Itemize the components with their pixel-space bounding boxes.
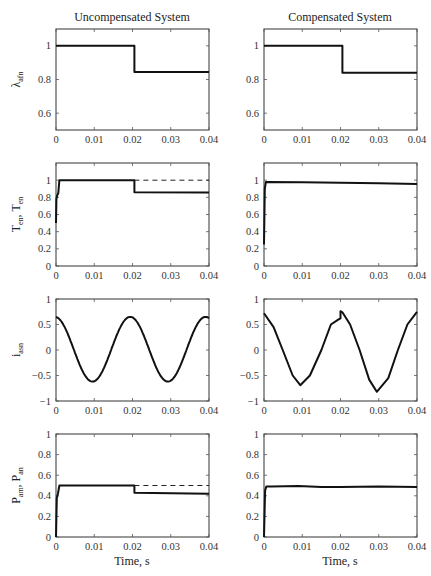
y-tick-label: 0.8 xyxy=(246,192,259,203)
plot-frame xyxy=(264,163,417,266)
y-tick-label: 0.6 xyxy=(38,209,51,220)
x-tick-label: 0.04 xyxy=(200,134,219,145)
panel-uncompensated-power: 00.20.40.60.8100.010.020.030.04 xyxy=(38,429,219,553)
y-tick-label: 0.8 xyxy=(246,449,259,460)
x-axis-labels: Time, s Time, s xyxy=(114,554,358,568)
y-axis-label: iasn xyxy=(9,343,25,357)
x-tick-label: 0.02 xyxy=(331,134,349,145)
x-tick-label: 0.04 xyxy=(200,541,219,552)
plot-frame xyxy=(56,29,209,130)
panel-compensated-current: −1−0.500.5100.010.020.030.04 xyxy=(240,294,427,417)
x-tick-label: 0.01 xyxy=(293,541,311,552)
y-tick-label: 0 xyxy=(254,261,259,272)
x-tick-label: 0.01 xyxy=(293,134,311,145)
y-tick-label: 1 xyxy=(46,175,51,186)
y-tick-label: 0.6 xyxy=(246,470,259,481)
y-tick-label: −0.5 xyxy=(240,370,259,381)
panel-uncompensated-flux: 0.60.8100.010.020.030.04 xyxy=(38,29,219,145)
panels: λafn0.60.8100.010.020.030.040.60.8100.01… xyxy=(9,29,427,552)
x-tick-label: 0.03 xyxy=(162,270,180,281)
y-tick-label: 0.4 xyxy=(246,490,260,501)
y-tick-label: 1 xyxy=(46,40,51,51)
y-tick-label: 1 xyxy=(254,175,259,186)
series-power xyxy=(56,486,209,538)
y-tick-label: 0 xyxy=(46,532,51,543)
x-tick-label: 0.03 xyxy=(162,134,180,145)
series-current xyxy=(56,317,209,382)
y-tick-label: 0.6 xyxy=(38,470,51,481)
y-tick-label: 0.5 xyxy=(38,319,51,330)
y-tick-label: 1 xyxy=(46,429,51,440)
x-tick-label: 0.02 xyxy=(331,405,349,416)
x-tick-label: 0.03 xyxy=(162,541,180,552)
x-tick-label: 0.03 xyxy=(370,270,388,281)
x-tick-label: 0.04 xyxy=(408,270,427,281)
y-tick-label: 0.2 xyxy=(38,511,51,522)
x-tick-label: 0.02 xyxy=(123,270,141,281)
panel-uncompensated-current: −1−0.500.5100.010.020.030.04 xyxy=(32,294,219,417)
y-tick-label: 0 xyxy=(254,345,259,356)
y-tick-label: 0.6 xyxy=(246,108,259,119)
x-tick-label: 0.03 xyxy=(162,405,180,416)
y-tick-label: −0.5 xyxy=(32,370,51,381)
x-tick-label: 0.02 xyxy=(331,541,349,552)
figure: Uncompensated System Compensated System … xyxy=(0,0,431,576)
y-axis-label: Pam, Pan xyxy=(9,467,25,504)
x-tick-label: 0.04 xyxy=(408,405,427,416)
x-tick-label: 0.01 xyxy=(293,270,311,281)
y-tick-label: 1 xyxy=(46,294,51,305)
y-tick-label: 0.8 xyxy=(246,74,259,85)
x-tick-label: 0 xyxy=(261,541,266,552)
y-tick-label: 0.4 xyxy=(38,226,52,237)
y-tick-label: 0.2 xyxy=(246,511,259,522)
x-tick-label: 0.02 xyxy=(123,541,141,552)
y-tick-label: −1 xyxy=(248,396,259,407)
series-torque xyxy=(264,182,417,245)
x-tick-label: 0.02 xyxy=(123,405,141,416)
column-title-uncompensated: Uncompensated System xyxy=(74,10,190,24)
panel-uncompensated-torque: 00.20.40.60.8100.010.020.030.04 xyxy=(38,163,219,281)
y-tick-label: 0 xyxy=(254,532,259,543)
x-tick-label: 0.04 xyxy=(200,270,219,281)
y-tick-label: 0.4 xyxy=(246,226,260,237)
x-tick-label: 0 xyxy=(53,270,58,281)
x-tick-label: 0.01 xyxy=(85,541,103,552)
x-axis-label-right: Time, s xyxy=(322,554,358,568)
y-tick-label: 0.4 xyxy=(38,490,52,501)
x-tick-label: 0.04 xyxy=(408,134,427,145)
series-current xyxy=(264,311,417,392)
x-tick-label: 0 xyxy=(53,541,58,552)
x-tick-label: 0.04 xyxy=(200,405,219,416)
series-flux xyxy=(264,46,417,73)
y-tick-label: 0.6 xyxy=(38,108,51,119)
x-tick-label: 0 xyxy=(53,405,58,416)
series-flux xyxy=(56,46,209,72)
x-tick-label: 0.03 xyxy=(370,405,388,416)
x-tick-label: 0.01 xyxy=(85,270,103,281)
plot-frame xyxy=(264,29,417,130)
y-tick-label: 0.8 xyxy=(38,449,51,460)
plot-frame xyxy=(56,163,209,266)
x-tick-label: 0 xyxy=(261,270,266,281)
x-tick-label: 0.02 xyxy=(331,270,349,281)
x-tick-label: 0.04 xyxy=(408,541,427,552)
panel-compensated-torque: 00.20.40.60.8100.010.020.030.04 xyxy=(246,163,427,281)
y-tick-label: 0.8 xyxy=(38,74,51,85)
x-tick-label: 0.01 xyxy=(85,405,103,416)
x-tick-label: 0.01 xyxy=(293,405,311,416)
y-tick-label: 0.2 xyxy=(38,243,51,254)
y-tick-label: 0 xyxy=(46,261,51,272)
y-tick-label: 1 xyxy=(254,40,259,51)
x-tick-label: 0 xyxy=(261,405,266,416)
series-torque xyxy=(56,180,209,223)
column-titles: Uncompensated System Compensated System xyxy=(74,10,392,24)
x-tick-label: 0 xyxy=(261,134,266,145)
y-axis-label: λafn xyxy=(9,71,25,87)
y-tick-label: 1 xyxy=(254,294,259,305)
y-tick-label: 1 xyxy=(254,429,259,440)
panel-compensated-flux: 0.60.8100.010.020.030.04 xyxy=(246,29,427,145)
x-tick-label: 0.02 xyxy=(123,134,141,145)
x-tick-label: 0.01 xyxy=(85,134,103,145)
y-tick-label: 0 xyxy=(46,345,51,356)
x-axis-label-left: Time, s xyxy=(114,554,150,568)
